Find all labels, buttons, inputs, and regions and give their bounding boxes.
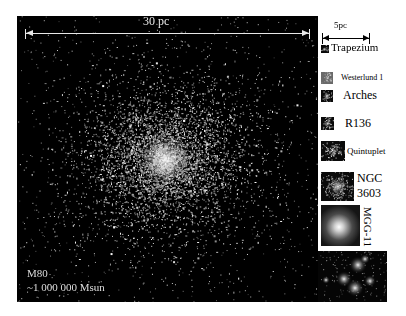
label-r136: R136: [345, 116, 371, 131]
label-trapezium: Trapezium: [331, 41, 378, 53]
cluster-mass: ~1 000 000 Msun: [27, 280, 105, 294]
arrow-left-icon: [323, 35, 329, 41]
thumb-arches: [321, 90, 333, 102]
scale-bar-5pc-label: 5pc: [334, 20, 347, 30]
label-arches: Arches: [343, 88, 377, 103]
label-mgg-11: MGG-11: [362, 207, 374, 247]
thumb-westerlund-1: [321, 72, 333, 84]
cluster-name: M80: [27, 266, 105, 280]
arrow-left-icon: [26, 30, 33, 36]
cluster-caption: M80 ~1 000 000 Msun: [27, 266, 105, 294]
thumb-trapezium: [321, 45, 329, 53]
scale-bar-label: 30 pc: [143, 16, 169, 29]
label-westerlund-1: Westerlund 1: [341, 73, 383, 82]
thumb-ngc-3603: [321, 172, 354, 201]
m80-cluster-image: 30 pc M80 ~1 000 000 Msun: [17, 16, 318, 302]
label-ngc-3603: NGC 3603: [357, 171, 382, 201]
label-quintuplet: Quintuplet: [347, 146, 386, 156]
arrow-right-icon: [302, 30, 309, 36]
star-field: [17, 16, 318, 302]
thumb-mgg-11: [321, 205, 360, 246]
thumb-quintuplet: [321, 141, 345, 161]
large-cluster-thumb: [318, 251, 387, 302]
scale-bar-30pc: [25, 29, 310, 39]
thumb-r136: [321, 117, 334, 130]
